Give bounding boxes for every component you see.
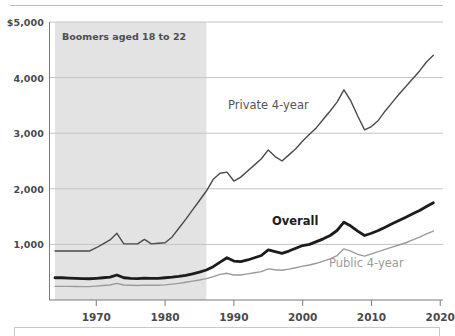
x-axis-tick-label-2000: 2000	[288, 311, 317, 323]
overall-series-label: Overall	[272, 214, 318, 228]
x-axis-tick-label-1990: 1990	[219, 311, 248, 323]
x-axis-tick-label-2020: 2020	[426, 311, 455, 323]
bottom-border-box	[14, 327, 440, 336]
shaded-band-group	[55, 22, 206, 300]
x-axis-tick-label-2010: 2010	[357, 311, 386, 323]
y-axis-tick-label-5000: $5,000	[7, 17, 44, 28]
line-chart-plot	[0, 0, 455, 336]
x-axis-tick-label-1980: 1980	[150, 311, 179, 323]
y-axis-tick-label-4000: 4,000	[13, 72, 44, 83]
y-axis-tick-label-1000: 1,000	[13, 239, 44, 250]
y-axis-tick-label-2000: 2,000	[13, 183, 44, 194]
chart-figure: 1,0002,0003,0004,000$5,000 1970198019902…	[0, 0, 455, 336]
y-axis-tick-label-3000: 3,000	[13, 128, 44, 139]
x-tick-group	[96, 300, 440, 306]
x-axis-tick-label-1970: 1970	[82, 311, 111, 323]
boomers-band	[55, 22, 206, 300]
public-series-label: Public 4-year	[329, 256, 404, 270]
shaded-band-label: Boomers aged 18 to 22	[62, 31, 186, 42]
private-series-label: Private 4-year	[228, 98, 309, 112]
